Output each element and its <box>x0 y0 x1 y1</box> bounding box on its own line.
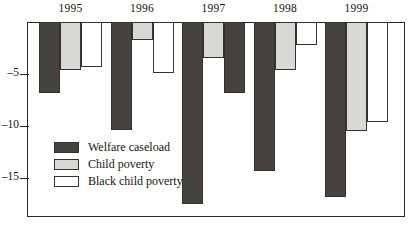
y-axis-tick-label-1: –10 <box>0 118 19 130</box>
legend-swatch-child-poverty <box>54 159 79 170</box>
x-axis-label-1997: 1997 <box>184 2 244 14</box>
bar-1995-welfare-caseload <box>39 22 60 93</box>
legend-swatch-welfare-caseload <box>54 142 79 153</box>
legend-label-welfare-caseload: Welfare caseload <box>88 141 170 154</box>
bar-1999-welfare-caseload <box>325 22 346 197</box>
legend-item-welfare-caseload: Welfare caseload <box>54 140 183 155</box>
bar-1998-child-poverty <box>275 22 296 70</box>
bar-chart: 1995 1996 1997 1998 1999 –5–10–15 Welfar… <box>0 0 409 226</box>
bar-1996-welfare-caseload <box>111 22 132 130</box>
legend-label-child-poverty: Child poverty <box>88 158 154 171</box>
bar-1999-black-child-poverty <box>367 22 388 122</box>
chart-legend: Welfare caseload Child poverty Black chi… <box>54 140 183 191</box>
legend-item-black-child-poverty: Black child poverty <box>54 174 183 189</box>
x-axis-label-1996: 1996 <box>112 2 172 14</box>
bar-1997-child-poverty <box>203 22 224 58</box>
y-axis-tick-mark-2 <box>20 178 29 179</box>
bar-1997-black-child-poverty <box>224 22 245 93</box>
y-axis-tick-mark-1 <box>20 126 29 127</box>
bar-1996-child-poverty <box>132 22 153 40</box>
legend-swatch-black-child-poverty <box>54 176 79 187</box>
x-axis-category-labels: 1995 1996 1997 1998 1999 <box>0 0 409 22</box>
y-axis-tick-label-2: –15 <box>0 170 19 182</box>
legend-label-black-child-poverty: Black child poverty <box>88 175 183 188</box>
bar-1998-black-child-poverty <box>296 22 317 45</box>
bar-1997-welfare-caseload <box>182 22 203 204</box>
legend-item-child-poverty: Child poverty <box>54 157 183 172</box>
x-axis-label-1995: 1995 <box>41 2 101 14</box>
bar-1998-welfare-caseload <box>254 22 275 171</box>
x-axis-label-1999: 1999 <box>327 2 387 14</box>
y-axis-tick-mark-0 <box>20 74 29 75</box>
bar-1996-black-child-poverty <box>153 22 174 73</box>
bar-1995-child-poverty <box>60 22 81 70</box>
bar-1999-child-poverty <box>346 22 367 131</box>
bar-1995-black-child-poverty <box>81 22 102 67</box>
y-axis-tick-label-0: –5 <box>0 66 19 78</box>
x-axis-label-1998: 1998 <box>255 2 315 14</box>
